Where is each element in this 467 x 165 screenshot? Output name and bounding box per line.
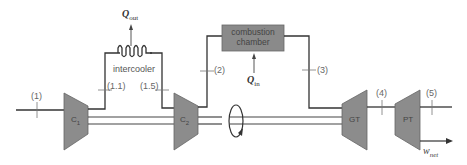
intercooler-piping <box>88 53 174 109</box>
w-net-arrow <box>420 138 453 144</box>
shaft <box>88 117 342 124</box>
inlet-line <box>16 102 64 118</box>
combustion-chamber-label: combustion chamber <box>222 27 284 47</box>
diagram-canvas <box>0 0 467 165</box>
exhaust-line <box>420 100 452 115</box>
q-out-sub: out <box>129 14 138 22</box>
c1-label: C1 <box>71 115 80 126</box>
state-label-3: (3) <box>317 66 328 75</box>
w-net-label: wnet <box>423 146 438 159</box>
q-in-sub: in <box>254 80 259 88</box>
state-label-2: (2) <box>214 66 225 75</box>
q-in-label: Qin <box>247 75 260 88</box>
state-label-4: (4) <box>376 89 387 98</box>
line-state-3 <box>284 36 342 108</box>
intercooler-label: intercooler <box>113 65 155 74</box>
state-label-1-5: (1.5) <box>140 82 159 91</box>
q-out-arrow <box>129 24 133 46</box>
q-out-label: Qout <box>122 9 138 22</box>
gas-turbine-diagram: (1) (1.1) (1.5) (2) (3) (4) (5) intercoo… <box>0 0 467 165</box>
line-state-4 <box>367 100 395 115</box>
rotation-icon <box>229 105 243 137</box>
gt-label: GT <box>349 115 360 124</box>
intercooler-coil <box>118 46 152 57</box>
pt-label: PT <box>403 115 413 124</box>
state-label-5: (5) <box>426 89 437 98</box>
state-label-1-1: (1.1) <box>107 82 126 91</box>
c2-label: C2 <box>180 115 189 126</box>
state-label-1: (1) <box>31 92 42 101</box>
combustion-chamber-line2: chamber <box>222 37 284 47</box>
combustion-chamber-line1: combustion <box>222 27 284 37</box>
q-in-arrow <box>252 53 256 73</box>
